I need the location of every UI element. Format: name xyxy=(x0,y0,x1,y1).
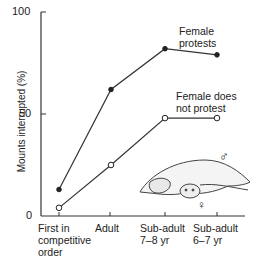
legend-label-protests: Femaleprotests xyxy=(179,25,216,49)
legend-label-no-protest: Female doesnot protest xyxy=(176,90,237,114)
x-tick-label-first: First incompetitiveorder xyxy=(38,222,91,258)
data-point xyxy=(57,187,62,192)
y-axis-label: Mounts interrupted (%) xyxy=(16,67,27,177)
y-tick-label-0: 0 xyxy=(26,209,32,221)
data-point xyxy=(214,115,220,121)
data-point xyxy=(163,46,168,51)
x-tick-label-subadult-78: Sub-adult7–8 yr xyxy=(140,222,185,246)
x-tick-label-subadult-67: Sub-adult6–7 yr xyxy=(193,222,238,246)
data-point xyxy=(215,53,220,58)
male-symbol-icon: ♂ xyxy=(219,151,229,163)
data-point xyxy=(108,162,114,168)
data-point xyxy=(109,87,114,92)
data-point xyxy=(162,115,168,121)
y-tick-label-100: 100 xyxy=(12,5,30,17)
x-tick-label-adult: Adult xyxy=(95,222,119,234)
female-symbol-icon: ♀ xyxy=(197,199,206,211)
seal-illustration xyxy=(140,160,250,198)
data-point xyxy=(56,205,62,211)
